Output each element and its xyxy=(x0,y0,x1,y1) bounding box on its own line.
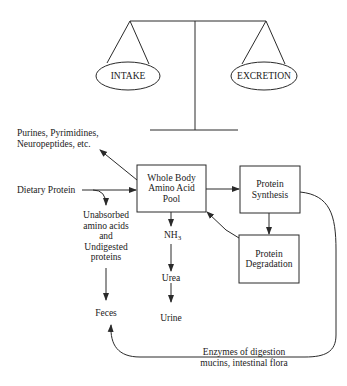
degradation-line2: Degradation xyxy=(246,259,293,270)
nh3-base: NH xyxy=(164,230,178,240)
protein-balance-diagram: INTAKE EXCRETION Purines, Pyrimidines, N… xyxy=(0,0,347,386)
unabsorbed-line3: and xyxy=(76,231,136,242)
nh3-subscript: 3 xyxy=(178,234,182,242)
purines-line1: Purines, Pyrimidines, xyxy=(17,128,99,139)
enzymes-label: Enzymes of digestion mucins, intestinal … xyxy=(184,347,304,368)
unabsorbed-label: Unabsorbed amino acids and Undigested pr… xyxy=(76,210,136,263)
unabsorbed-line1: Unabsorbed xyxy=(76,210,136,221)
unabsorbed-line2: amino acids xyxy=(76,221,136,232)
purines-line2: Neuropeptides, etc. xyxy=(17,139,99,150)
nh3-label: NH3 xyxy=(164,230,181,244)
degradation-line1: Protein xyxy=(246,249,293,260)
pool-line2: Amino Acid xyxy=(147,183,195,194)
degradation-node: Protein Degradation xyxy=(239,235,299,283)
pool-node: Whole Body Amino Acid Pool xyxy=(137,165,206,212)
feces-label: Feces xyxy=(86,308,126,319)
synthesis-node: Protein Synthesis xyxy=(240,166,300,213)
pool-line3: Pool xyxy=(147,194,195,205)
urea-label: Urea xyxy=(151,273,191,284)
excretion-label: EXCRETION xyxy=(231,71,297,82)
intake-label: INTAKE xyxy=(96,71,160,82)
pool-line1: Whole Body xyxy=(147,173,195,184)
synthesis-line2: Synthesis xyxy=(252,190,288,201)
unabsorbed-line5: proteins xyxy=(76,252,136,263)
purines-label: Purines, Pyrimidines, Neuropeptides, etc… xyxy=(17,128,99,149)
urine-label: Urine xyxy=(151,313,191,324)
dietary-protein-label: Dietary Protein xyxy=(17,185,75,196)
enzymes-line2: mucins, intestinal flora xyxy=(184,358,304,369)
unabsorbed-line4: Undigested xyxy=(76,242,136,253)
synthesis-line1: Protein xyxy=(252,179,288,190)
enzymes-line1: Enzymes of digestion xyxy=(184,347,304,358)
